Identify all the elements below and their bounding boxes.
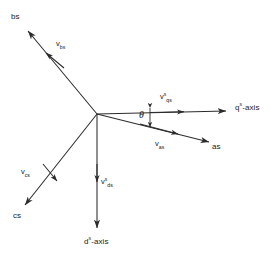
label-cs-axis: cs (13, 212, 21, 220)
label-v-qs: vsqs (160, 93, 172, 101)
v-as-sub: as (159, 144, 164, 150)
label-v-cs: vcs (21, 168, 30, 176)
v-bs-sub: bs (60, 44, 65, 50)
component-arrow-v-bs (46, 53, 64, 68)
component-arrow-v-as (140, 124, 178, 134)
v-cs-sub: cs (25, 172, 30, 178)
label-d-axis: ds-axis (84, 238, 109, 246)
label-v-bs: vbs (56, 40, 65, 48)
v-ds-sub: ds (107, 182, 112, 188)
label-as-axis: as (212, 143, 221, 151)
v-qs-sub: qs (166, 97, 171, 103)
d-axis-suffix: -axis (91, 237, 108, 246)
label-q-axis: qs-axis (235, 104, 260, 112)
phasor-vector-graphic (0, 0, 279, 257)
q-axis-suffix: -axis (242, 103, 259, 112)
label-theta: θ (139, 110, 144, 120)
label-v-as: vas (155, 140, 164, 148)
phasor-diagram: bs vbs vcs cs θ vsqs qs-axis vas as vsds… (0, 0, 279, 257)
vector-cs (25, 114, 97, 205)
label-v-ds: vsds (101, 178, 113, 186)
label-bs-axis: bs (11, 13, 20, 21)
vector-as (97, 114, 209, 142)
